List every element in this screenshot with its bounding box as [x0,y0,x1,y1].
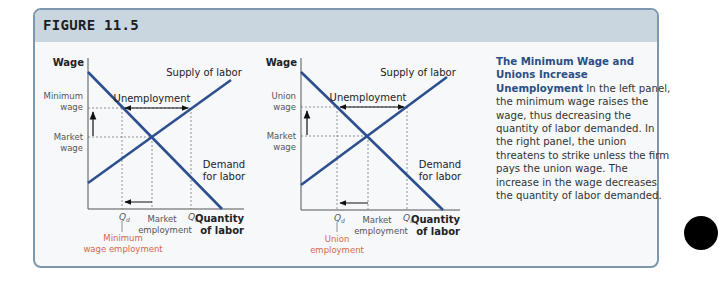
market-employment-label-1: Market [362,215,392,225]
figure-caption: The Minimum Wage and Unions Increase Une… [496,55,671,202]
high-wage-label-2: wage [273,102,296,112]
high-wage-label-1: Union [271,91,296,101]
x-axis-label-2: of labor [200,225,244,236]
high-wage-label-2: wage [60,102,83,112]
unemployment-label: Unemployment [114,93,191,104]
market-employment-label-2: employment [354,226,408,236]
qd-label: Qd [334,213,345,224]
y-axis-label: Wage [266,57,298,68]
left-chart: Wage Supply of labor Unemployment Minimu… [44,57,246,254]
supply-label: Supply of labor [166,67,242,78]
x-axis-label-1: Quantity [411,214,460,225]
market-employment-label-2: employment [138,225,192,235]
x-axis-label-2: of labor [416,226,460,237]
right-chart: Wage Supply of labor Unemployment Union … [266,57,462,255]
highlight-label-2: employment [310,245,364,255]
demand-label-1: Demand [203,159,245,170]
supply-label: Supply of labor [380,67,456,78]
x-axis-label-1: Quantity [195,213,244,224]
market-employment-label-1: Market [147,214,177,224]
market-wage-label-2: wage [60,143,83,153]
market-wage-label-1: Market [267,131,297,141]
unemployment-label: Unemployment [330,92,407,103]
y-axis-label: Wage [53,57,85,68]
market-wage-label-1: Market [54,132,84,142]
caption-body: In the left panel, the minimum wage rais… [496,83,670,201]
market-wage-label-2: wage [273,142,296,152]
qd-label: Qd [119,212,130,223]
highlight-label-1: Minimum [103,233,142,243]
demand-label-1: Demand [419,159,461,170]
page-marker-dot [684,216,718,250]
highlight-label-2: wage employment [83,244,163,254]
high-wage-label-1: Minimum [44,91,83,101]
demand-label-2: for labor [203,171,246,182]
highlight-label-1: Union [325,234,350,244]
demand-label-2: for labor [419,171,462,182]
